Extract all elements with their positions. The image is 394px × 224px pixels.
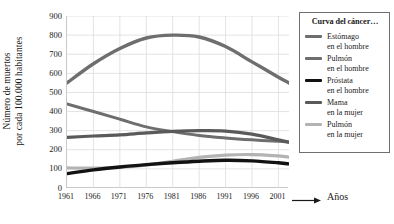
series-line	[67, 35, 289, 83]
legend-item[interactable]: Pulmónen el hombre	[305, 53, 385, 74]
legend-item-label: Mama	[327, 98, 347, 107]
y-tick-label: 100	[36, 164, 62, 173]
legend-item-sublabel: en la mujer	[305, 108, 385, 118]
legend-item-row: Pulmón	[305, 119, 385, 130]
legend-item[interactable]: Mamaen la mujer	[305, 97, 385, 118]
legend-color-swatch-icon	[305, 123, 322, 127]
x-axis-title: Años	[327, 191, 348, 203]
legend-color-swatch-icon	[305, 101, 322, 105]
legend-item[interactable]: Pulmónen la mujer	[305, 119, 385, 140]
y-tick-label: 400	[36, 107, 62, 116]
series-canvas	[67, 16, 289, 188]
y-axis-title: Número de muertos por cada 100.000 habit…	[2, 0, 36, 186]
x-axis-tick-labels: 196119661971197619811986199119962001	[66, 192, 306, 206]
y-axis-title-line-2: por cada 100.000 habitantes	[14, 0, 26, 186]
y-tick-label: 500	[36, 88, 62, 97]
x-tick-label: 2001	[260, 192, 294, 202]
plot-area	[66, 16, 288, 188]
y-tick-label: 900	[36, 12, 62, 21]
legend-title: Curva del cáncer…	[305, 17, 385, 27]
legend-item[interactable]: Próstataen el hombre	[305, 75, 385, 96]
legend-item-label: Estómago	[327, 32, 359, 41]
y-tick-label: 600	[36, 69, 62, 78]
legend-item-label: Pulmón	[327, 54, 352, 63]
y-tick-label: 300	[36, 126, 62, 135]
legend-color-swatch-icon	[305, 35, 322, 39]
y-axis-title-line-1: Número de muertos	[2, 0, 14, 186]
x-axis-arrow-icon	[292, 196, 322, 205]
legend-item-row: Estómago	[305, 31, 385, 42]
y-axis-tick-labels: 9008007006005004003002001000	[36, 0, 62, 224]
legend-item-sublabel: en el hombre	[305, 64, 385, 74]
legend-box: Curva del cáncer… Estómagoen el hombrePu…	[299, 12, 390, 153]
legend-item[interactable]: Estómagoen el hombre	[305, 31, 385, 52]
y-tick-label: 0	[36, 184, 62, 193]
legend-item-sublabel: en el hombre	[305, 42, 385, 52]
legend-color-swatch-icon	[305, 57, 322, 61]
y-tick-label: 200	[36, 145, 62, 154]
legend-items: Estómagoen el hombrePulmónen el hombrePr…	[305, 31, 385, 140]
legend-item-sublabel: en el hombre	[305, 86, 385, 96]
legend-item-row: Pulmón	[305, 53, 385, 64]
legend-item-row: Mama	[305, 97, 385, 108]
legend-item-label: Próstata	[327, 76, 353, 85]
cancer-mortality-line-chart: Número de muertos por cada 100.000 habit…	[0, 0, 394, 224]
y-tick-label: 700	[36, 50, 62, 59]
legend-color-swatch-icon	[305, 79, 322, 83]
legend-item-sublabel: en la mujer	[305, 130, 385, 140]
legend-item-row: Próstata	[305, 75, 385, 86]
y-tick-label: 800	[36, 31, 62, 40]
legend-item-label: Pulmón	[327, 120, 352, 129]
